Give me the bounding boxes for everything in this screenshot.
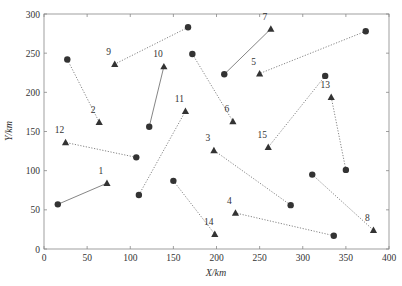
point-label: 4 [227,196,232,206]
triangle-marker [256,70,263,76]
triangle-marker [232,209,239,215]
triangle-marker [62,139,69,145]
triangle-marker [229,118,236,124]
triangle-marker [160,63,167,69]
circle-marker [221,71,227,77]
circle-marker [309,171,315,177]
connection-line [224,29,271,74]
point-label: 11 [175,94,184,104]
point-markers [55,24,377,239]
triangle-marker [328,93,335,99]
x-tick-label: 300 [296,253,311,263]
x-tick-label: 250 [253,253,268,263]
point-label: 7 [262,12,267,22]
y-tick-label: 250 [26,49,41,59]
y-tick-label: 200 [26,88,41,98]
y-tick-label: 50 [31,205,41,215]
scatter-chart: 0501001502002503003504000501001502002503… [0,0,402,286]
point-label: 14 [204,217,214,227]
circle-marker [170,178,176,184]
x-tick-label: 0 [42,253,47,263]
point-label: 13 [320,80,330,90]
point-label: 6 [225,104,230,114]
circle-marker [64,56,70,62]
circle-marker [185,24,191,30]
point-label: 12 [55,125,65,135]
connection-line [235,213,333,236]
triangle-marker [96,119,103,125]
circle-marker [189,51,195,57]
connection-line [149,66,164,126]
point-label: 1 [99,166,104,176]
circle-marker [343,167,349,173]
triangle-marker [111,61,118,67]
x-tick-label: 400 [382,253,397,263]
triangle-marker [211,231,218,237]
point-label: 2 [91,105,96,115]
y-tick-label: 150 [26,127,41,137]
point-labels: 123456789101112131415 [55,12,370,227]
point-label: 10 [153,49,163,59]
circle-marker [322,73,328,79]
circle-marker [287,202,293,208]
point-label: 9 [106,47,111,57]
connection-line [268,76,325,147]
x-tick-label: 50 [82,253,92,263]
plot-frame [44,14,389,249]
x-tick-label: 150 [166,253,181,263]
connection-line [139,111,186,195]
connection-line [331,97,346,170]
y-tick-label: 100 [26,166,41,176]
point-label: 3 [206,133,211,143]
point-label: 15 [258,130,268,140]
y-axis-title: Y/km [3,121,14,141]
circle-marker [363,28,369,34]
circle-marker [55,201,61,207]
x-tick-label: 350 [339,253,354,263]
point-label: 5 [251,57,256,67]
circle-marker [331,232,337,238]
triangle-marker [210,147,217,153]
connection-line [115,27,188,64]
x-axis-title: X/km [205,267,227,278]
y-tick-label: 0 [35,245,40,255]
circle-marker [136,192,142,198]
connection-lines [58,27,374,235]
x-tick-label: 100 [123,253,138,263]
connection-line [58,183,107,204]
circle-marker [133,154,139,160]
circle-marker [146,124,152,130]
triangle-marker [103,180,110,186]
connection-line [214,150,291,205]
triangle-marker [267,25,274,31]
y-tick-label: 300 [26,10,41,20]
connection-line [260,31,366,73]
triangle-marker [182,108,189,114]
connection-line [66,142,137,157]
point-label: 8 [365,213,370,223]
x-tick-label: 200 [209,253,224,263]
